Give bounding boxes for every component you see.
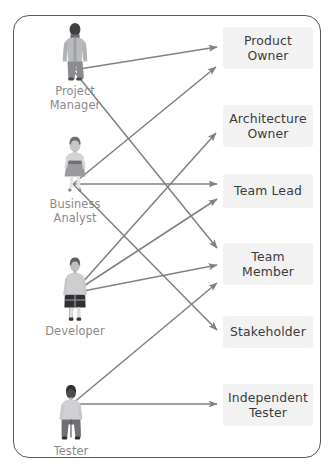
- person-female-dress-icon: [52, 136, 98, 196]
- role-label: Team Lead: [234, 183, 302, 199]
- person-male-suit-icon: [52, 21, 98, 83]
- role-label: Stakeholder: [230, 324, 306, 340]
- actor-business-analyst[interactable]: Business Analyst: [29, 136, 121, 225]
- role-box-stakeholder[interactable]: Stakeholder: [223, 316, 313, 348]
- role-box-team-member[interactable]: Team Member: [223, 243, 313, 285]
- role-label: Product Owner: [244, 33, 292, 64]
- person-female-casual-icon: [52, 257, 98, 323]
- actor-label: Tester: [54, 445, 89, 459]
- role-box-team-lead[interactable]: Team Lead: [223, 174, 313, 208]
- role-label: Independent Tester: [228, 390, 308, 421]
- actor-project-manager[interactable]: Project Manager: [29, 21, 121, 112]
- role-box-architecture-owner[interactable]: Architecture Owner: [223, 105, 313, 147]
- actor-label: Developer: [45, 325, 104, 339]
- role-box-product-owner[interactable]: Product Owner: [223, 27, 313, 69]
- actor-label: Business Analyst: [49, 198, 100, 225]
- role-label: Architecture Owner: [229, 111, 307, 142]
- diagram-canvas: Project Manager Business Analyst: [0, 0, 334, 474]
- role-label: Team Member: [242, 249, 294, 280]
- actor-developer[interactable]: Developer: [29, 257, 121, 339]
- role-box-independent-tester[interactable]: Independent Tester: [223, 384, 313, 426]
- actor-tester[interactable]: Tester: [25, 385, 117, 459]
- person-male-casual-icon: [48, 385, 94, 443]
- actor-label: Project Manager: [50, 85, 101, 112]
